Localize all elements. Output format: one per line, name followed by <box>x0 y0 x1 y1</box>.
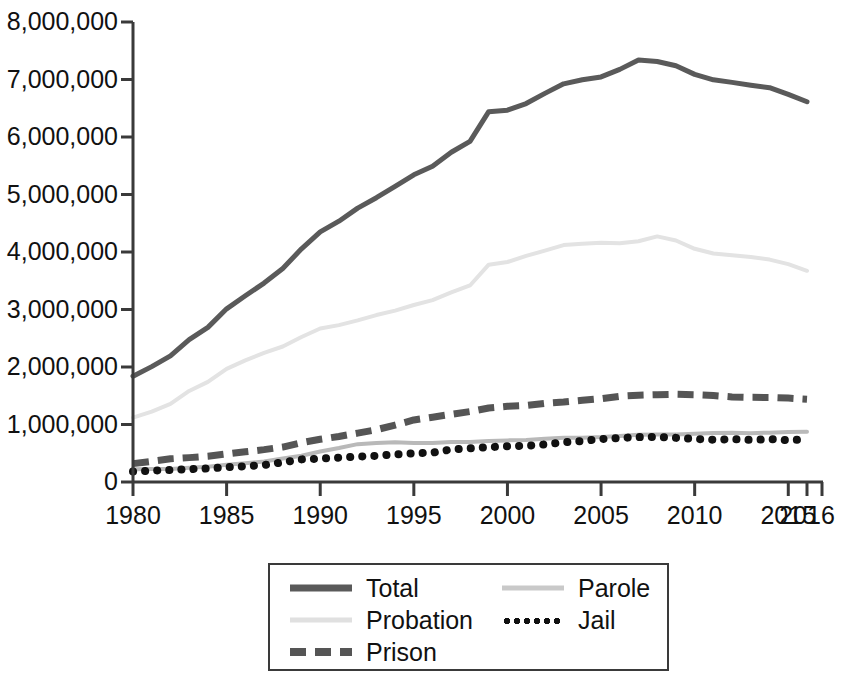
y-tick-label: 0 <box>104 469 118 494</box>
legend-label: Prison <box>366 640 437 665</box>
legend-label: Jail <box>578 608 616 633</box>
series-line-total <box>133 60 807 376</box>
legend-label: Parole <box>578 576 650 601</box>
x-tick-label: 1985 <box>182 503 272 528</box>
legend-item-parole: Parole <box>502 573 650 603</box>
series-line-prison <box>133 394 807 463</box>
chart-legend: TotalProbationPrisonParoleJail <box>268 563 669 671</box>
y-tick-label: 3,000,000 <box>7 297 118 322</box>
legend-swatch-prison-icon <box>290 639 352 665</box>
x-tick-label: 2010 <box>650 503 740 528</box>
x-tick-label: 1980 <box>88 503 178 528</box>
legend-item-probation: Probation <box>290 605 473 635</box>
line-chart-plot <box>0 0 849 540</box>
x-tick-label: 1990 <box>275 503 365 528</box>
chart-figure: 01,000,0002,000,0003,000,0004,000,0005,0… <box>0 0 849 675</box>
legend-item-prison: Prison <box>290 637 437 667</box>
y-tick-label: 1,000,000 <box>7 412 118 437</box>
y-tick-label: 7,000,000 <box>7 67 118 92</box>
legend-label: Probation <box>366 608 473 633</box>
legend-item-total: Total <box>290 573 419 603</box>
legend-item-jail: Jail <box>502 605 616 635</box>
x-tick-label: 1995 <box>369 503 459 528</box>
data-series-group <box>133 60 807 472</box>
y-tick-label: 6,000,000 <box>7 124 118 149</box>
y-tick-label: 4,000,000 <box>7 239 118 264</box>
legend-label: Total <box>366 576 419 601</box>
axes-group <box>121 22 823 496</box>
x-tick-label: 2005 <box>556 503 646 528</box>
legend-swatch-jail-icon <box>502 607 564 633</box>
series-line-probation <box>133 236 807 417</box>
x-tick-label: 2016 <box>762 503 849 528</box>
x-tick-label: 2000 <box>462 503 552 528</box>
y-tick-label: 5,000,000 <box>7 182 118 207</box>
y-tick-label: 2,000,000 <box>7 354 118 379</box>
legend-swatch-total-icon <box>290 575 352 601</box>
y-tick-label: 8,000,000 <box>7 9 118 34</box>
legend-swatch-probation-icon <box>290 607 352 633</box>
legend-swatch-parole-icon <box>502 575 564 601</box>
